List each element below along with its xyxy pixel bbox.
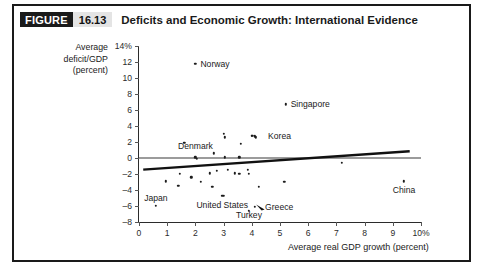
point-label-singapore: Singapore — [291, 99, 330, 109]
y-axis-tick-label: 8 — [127, 89, 132, 99]
y-axis-tick-label: 0 — [127, 153, 132, 163]
x-axis-tick — [167, 222, 168, 226]
y-axis-tick — [135, 190, 139, 191]
x-axis-tick-label: 3 — [221, 228, 226, 238]
y-axis-tick — [135, 78, 139, 79]
y-axis-tick — [135, 94, 139, 95]
y-axis-tick-label: –2 — [122, 169, 132, 179]
y-axis-tick — [135, 62, 139, 63]
point-label-united-states: United States — [196, 200, 248, 210]
x-axis-tick-label: 4 — [249, 228, 254, 238]
plot-wrapper: 14%121086420–2–4–6–8012345678910%NorwayS… — [0, 0, 483, 276]
point-label-greece: Greece — [265, 202, 293, 212]
y-axis-tick — [135, 158, 139, 159]
y-axis-tick-label: 4 — [127, 121, 132, 131]
y-axis-tick-label: –8 — [122, 217, 132, 227]
y-axis-tick-label: 2 — [127, 137, 132, 147]
y-axis-tick — [135, 46, 139, 47]
x-axis-tick — [365, 222, 366, 226]
point-label-china: China — [393, 185, 415, 195]
x-axis-tick-label: 8 — [362, 228, 367, 238]
x-axis-tick-label: 2 — [193, 228, 198, 238]
x-axis-tick-label: 1 — [165, 228, 170, 238]
y-axis-tick — [135, 110, 139, 111]
x-axis-tick — [195, 222, 196, 226]
plot-area: 14%121086420–2–4–6–8012345678910%NorwayS… — [138, 46, 421, 223]
y-axis-tick-label: 12 — [122, 57, 132, 67]
x-axis-tick-label: 5 — [278, 228, 283, 238]
y-axis-tick — [135, 142, 139, 143]
x-axis-tick — [224, 222, 225, 226]
point-label-turkey: Turkey — [236, 210, 262, 220]
y-axis-tick — [135, 126, 139, 127]
x-axis-tick — [252, 222, 253, 226]
y-axis-tick — [135, 206, 139, 207]
x-axis-tick — [336, 222, 337, 226]
point-label-korea: Korea — [268, 131, 291, 141]
x-axis-tick-label: 10% — [412, 228, 429, 238]
y-axis-tick-label: –4 — [122, 185, 132, 195]
x-axis-tick-label: 0 — [137, 228, 142, 238]
x-axis-tick — [393, 222, 394, 226]
y-axis-tick-label: 10 — [122, 73, 132, 83]
point-label-norway: Norway — [200, 59, 229, 69]
point-label-denmark: Denmark — [178, 141, 213, 151]
y-axis-tick-label: 14% — [115, 41, 132, 51]
x-axis-tick — [139, 222, 140, 226]
y-axis-tick — [135, 174, 139, 175]
x-axis-tick-label: 9 — [390, 228, 395, 238]
figure-frame: FIGURE 16.13 Deficits and Economic Growt… — [0, 0, 483, 276]
x-axis-tick-label: 7 — [334, 228, 339, 238]
point-label-japan: Japan — [144, 193, 167, 203]
x-axis-tick — [421, 222, 422, 226]
x-axis-tick — [308, 222, 309, 226]
x-axis-tick-label: 6 — [306, 228, 311, 238]
y-axis-tick-label: 6 — [127, 105, 132, 115]
y-axis-tick-label: –6 — [122, 201, 132, 211]
x-axis-tick — [280, 222, 281, 226]
